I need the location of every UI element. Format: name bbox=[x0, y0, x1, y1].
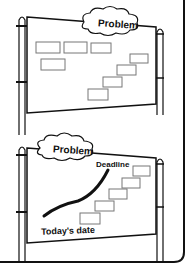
top-board: Problem bbox=[16, 7, 164, 136]
deadline-label: Deadline bbox=[96, 160, 130, 169]
today-label: Today's date bbox=[41, 225, 95, 237]
problem-boards-diagram: Problem Problem Deadline Today's date bbox=[0, 0, 188, 271]
bottom-board: Problem Deadline Today's date bbox=[16, 133, 164, 262]
